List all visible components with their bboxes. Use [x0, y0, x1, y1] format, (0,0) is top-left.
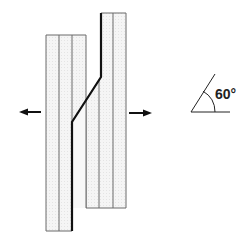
angle-label: 60° — [215, 87, 236, 101]
angle-arc — [203, 91, 215, 112]
scarf-joint-diagram — [0, 0, 249, 241]
right-force-arrow — [129, 110, 152, 117]
angle-ray — [191, 74, 215, 112]
left-force-arrow — [19, 109, 41, 116]
